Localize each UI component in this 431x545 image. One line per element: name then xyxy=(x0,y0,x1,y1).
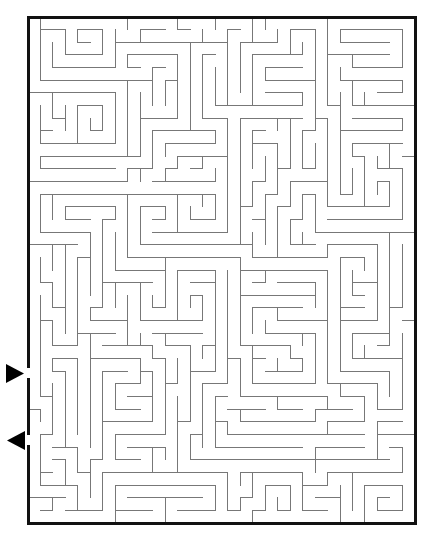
maze-canvas xyxy=(0,0,431,545)
maze-puzzle-root xyxy=(0,0,431,545)
